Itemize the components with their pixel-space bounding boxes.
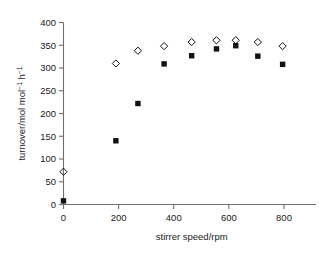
data-point-square <box>135 101 140 106</box>
data-point-square <box>113 138 118 143</box>
y-tick-label: 150 <box>40 131 56 142</box>
data-point-square <box>161 61 166 66</box>
y-tick-label: 200 <box>40 108 56 119</box>
y-tick-label: 350 <box>40 40 56 51</box>
y-tick-label: 400 <box>40 17 56 28</box>
x-tick-label: 800 <box>276 212 292 223</box>
x-axis-title: stirrer speed/rpm <box>156 231 228 242</box>
data-point-square <box>280 62 285 67</box>
data-point-square <box>255 53 260 58</box>
y-tick-label: 100 <box>40 153 56 164</box>
scatter-plot: 050100150200250300350400 0200400600800 s… <box>0 0 326 257</box>
y-tick-label: 0 <box>51 199 56 210</box>
x-tick-label: 0 <box>61 212 66 223</box>
y-tick-label: 300 <box>40 62 56 73</box>
data-point-square <box>214 46 219 51</box>
data-point-square <box>233 43 238 48</box>
y-axis-title: turnover/mol mol−1 h−1 <box>16 66 27 160</box>
y-tick-label: 50 <box>45 176 56 187</box>
chart-container: 050100150200250300350400 0200400600800 s… <box>0 0 326 257</box>
data-point-square <box>189 53 194 58</box>
x-tick-label: 400 <box>166 212 182 223</box>
data-point-square <box>61 198 66 203</box>
x-tick-label: 600 <box>221 212 237 223</box>
x-tick-label: 200 <box>111 212 127 223</box>
y-tick-label: 250 <box>40 85 56 96</box>
